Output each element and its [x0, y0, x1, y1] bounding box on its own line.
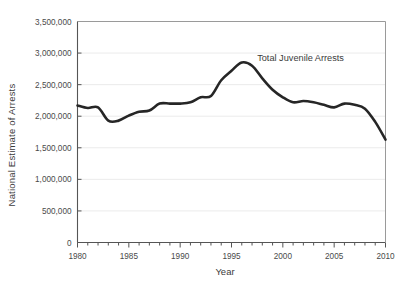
y-axis-tick-label: 0 [67, 239, 72, 248]
x-axis-tick-label: 1995 [222, 252, 241, 261]
y-axis-tick-label: 500,000 [42, 207, 72, 216]
line-chart-plot: 0500,0001,000,0001,500,0002,000,0002,500… [0, 0, 402, 290]
y-axis-tick-label: 1,000,000 [35, 175, 72, 184]
y-axis-tick-label: 2,500,000 [35, 81, 72, 90]
x-axis-tick-label: 2005 [325, 252, 344, 261]
x-axis-ticks-group: 1980198519901995200020052010 [68, 243, 395, 261]
x-axis-title: Year [0, 266, 402, 277]
y-axis-ticks-group: 0500,0001,000,0001,500,0002,000,0002,500… [35, 18, 81, 248]
chart-figure: National Estimate of Arrests 0500,0001,0… [0, 0, 402, 290]
data-series-group [78, 62, 386, 139]
y-axis-tick-label: 3,500,000 [35, 18, 72, 27]
x-axis-tick-label: 1990 [171, 252, 190, 261]
data-line-total-juvenile-arrests [78, 62, 386, 139]
y-axis-tick-label: 1,500,000 [35, 144, 72, 153]
y-axis-tick-label: 2,000,000 [35, 112, 72, 121]
series-annotation-group: Total Juvenile Arrests [257, 53, 344, 63]
x-axis-tick-label: 2000 [274, 252, 293, 261]
series-annotation-label: Total Juvenile Arrests [257, 53, 344, 63]
gridlines-group [78, 22, 386, 211]
x-axis-tick-label: 1980 [68, 252, 87, 261]
x-axis-tick-label: 2010 [376, 252, 395, 261]
y-axis-tick-label: 3,000,000 [35, 49, 72, 58]
x-axis-title-text: Year [167, 266, 234, 277]
x-axis-tick-label: 1985 [120, 252, 139, 261]
